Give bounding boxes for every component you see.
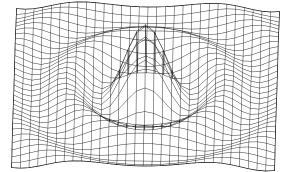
surface-plot-figure: Three dimensional wireframe mesh surface… bbox=[0, 0, 289, 172]
wireframe-surface-canvas bbox=[0, 0, 289, 172]
